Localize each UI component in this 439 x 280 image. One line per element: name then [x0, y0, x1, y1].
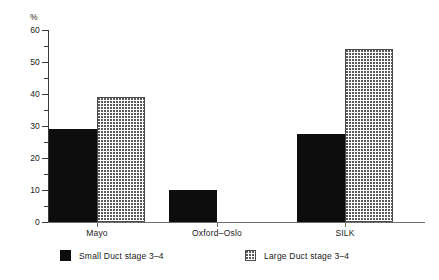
legend-label-large-duct: Large Duct stage 3–4: [264, 251, 349, 261]
chart-legend: Small Duct stage 3–4 Large Duct stage 3–…: [0, 250, 439, 266]
y-tick-minor: [44, 46, 48, 47]
plot-area: % 0102030405060 MayoOxford–OsloSILK Smal…: [0, 0, 439, 280]
bar: [49, 129, 97, 222]
y-tick-major: [42, 30, 48, 31]
x-axis-label-oxford-oslo: Oxford–Oslo: [192, 228, 242, 238]
legend-item-large-duct: Large Duct stage 3–4: [245, 250, 349, 261]
legend-swatch-solid-icon: [60, 250, 71, 261]
y-tick-label: 20: [16, 153, 40, 163]
y-tick-minor: [44, 174, 48, 175]
y-tick-label: 50: [16, 57, 40, 67]
y-tick-label: 30: [16, 121, 40, 131]
y-tick-major: [42, 94, 48, 95]
y-tick-label: 10: [16, 185, 40, 195]
legend-item-small-duct: Small Duct stage 3–4: [60, 250, 164, 261]
y-tick-major: [42, 158, 48, 159]
bar: [169, 190, 217, 222]
y-tick-major: [42, 222, 48, 223]
y-tick-minor: [44, 206, 48, 207]
y-tick-label: 60: [16, 25, 40, 35]
y-tick-label: 0: [16, 217, 40, 227]
x-axis-line: [48, 222, 425, 223]
legend-label-small-duct: Small Duct stage 3–4: [79, 251, 164, 261]
y-tick-major: [42, 190, 48, 191]
x-tick: [345, 222, 346, 227]
x-tick: [217, 222, 218, 227]
bar: [297, 134, 345, 222]
y-tick-label: 40: [16, 89, 40, 99]
x-axis-label-silk: SILK: [335, 228, 354, 238]
bar: [97, 97, 145, 222]
y-tick-major: [42, 126, 48, 127]
chart-figure: % 0102030405060 MayoOxford–OsloSILK Smal…: [0, 0, 439, 280]
x-tick: [97, 222, 98, 227]
bar: [345, 49, 393, 222]
y-axis-unit-label: %: [30, 12, 38, 22]
x-axis-label-mayo: Mayo: [86, 228, 108, 238]
y-tick-major: [42, 62, 48, 63]
y-tick-minor: [44, 78, 48, 79]
legend-swatch-dotted-icon: [245, 250, 256, 261]
y-tick-minor: [44, 142, 48, 143]
y-tick-minor: [44, 110, 48, 111]
